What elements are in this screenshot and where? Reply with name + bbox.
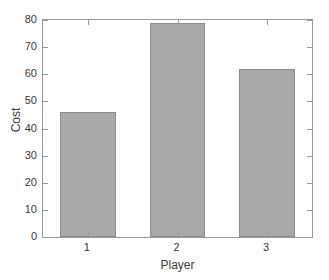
y-tick-label: 70 [0,40,37,52]
y-tick-mark [43,237,48,238]
bar-3 [239,69,295,237]
x-tick-mark [267,20,268,25]
y-tick-mark [307,237,312,238]
x-tick-label: 2 [173,241,179,253]
x-tick-mark [88,20,89,25]
y-tick-label: 60 [0,67,37,79]
y-tick-mark [307,47,312,48]
y-tick-mark [307,129,312,130]
y-tick-label: 0 [0,230,37,242]
y-tick-mark [307,101,312,102]
y-tick-label: 80 [0,13,37,25]
y-tick-mark [43,20,48,21]
y-tick-label: 10 [0,203,37,215]
x-tick-label: 1 [84,241,90,253]
x-axis-tick-labels: 123 [42,241,313,257]
y-tick-mark [43,183,48,184]
y-tick-mark [43,74,48,75]
y-tick-mark [43,101,48,102]
plot-area [43,20,312,237]
y-tick-mark [43,129,48,130]
y-tick-mark [43,47,48,48]
axes-box [42,19,313,238]
y-tick-label: 30 [0,149,37,161]
y-tick-mark [307,156,312,157]
x-tick-mark [267,232,268,237]
bar-2 [150,23,206,237]
x-tick-mark [88,232,89,237]
x-tick-label: 3 [263,241,269,253]
x-tick-mark [178,20,179,25]
y-tick-mark [307,20,312,21]
x-tick-mark [178,232,179,237]
y-tick-mark [307,74,312,75]
y-tick-label: 20 [0,176,37,188]
y-tick-mark [307,183,312,184]
y-tick-mark [307,210,312,211]
x-axis-title: Player [42,258,313,272]
y-tick-mark [43,156,48,157]
bar-1 [60,112,116,237]
y-axis-title: Cost [9,90,23,150]
bar-chart-figure: 01020304050607080 Cost 123 Player [0,0,329,280]
y-tick-mark [43,210,48,211]
